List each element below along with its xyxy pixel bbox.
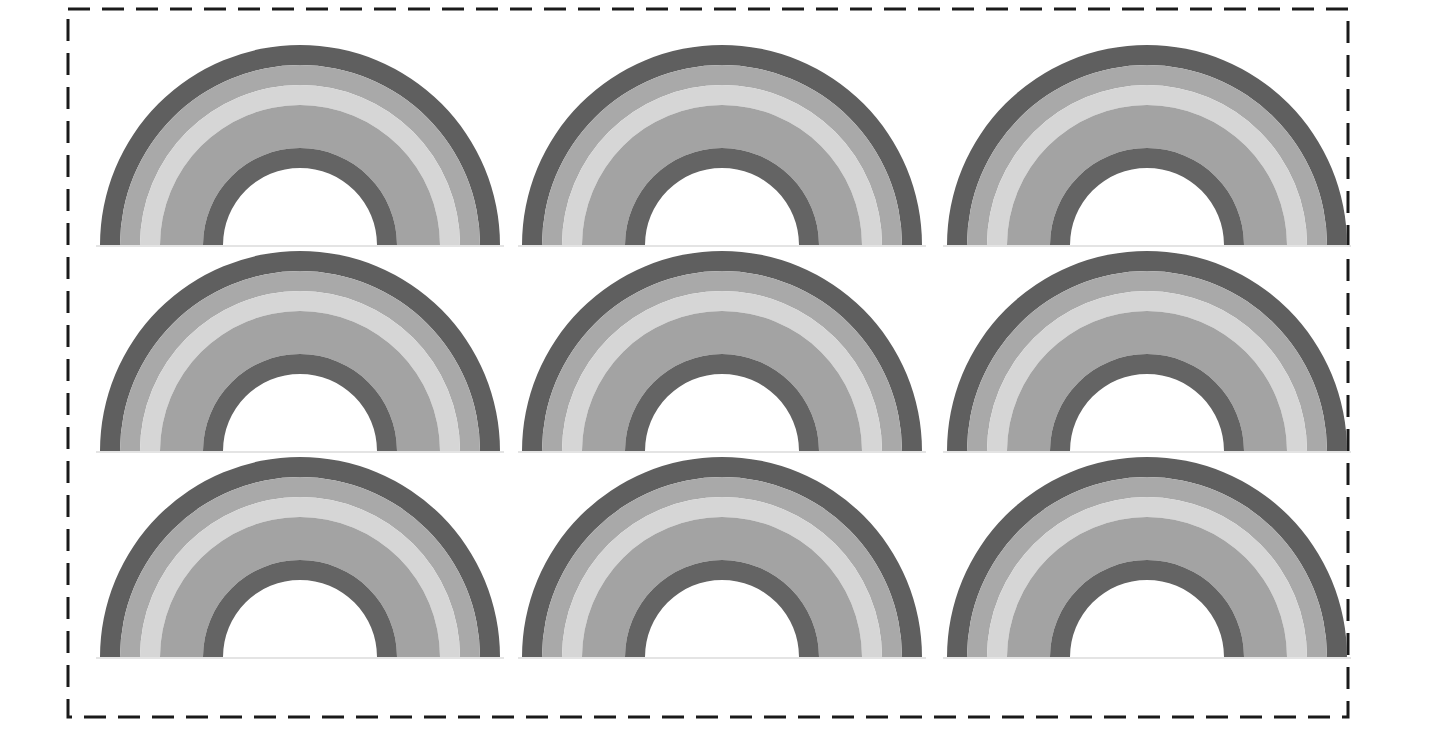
rainbow-2-3 (943, 251, 1351, 453)
rainbow-ground (943, 451, 1351, 453)
rainbow-ground (518, 245, 926, 247)
rainbow-1-3 (943, 45, 1351, 247)
rainbow-3-1 (96, 457, 504, 659)
rainbow-3-3 (943, 457, 1351, 659)
rainbow-ground (96, 451, 504, 453)
rainbow-ground (96, 245, 504, 247)
rainbow-grid (96, 45, 1351, 659)
rainbow-ground (943, 657, 1351, 659)
rainbow-1-1 (96, 45, 504, 247)
rainbow-1-2 (518, 45, 926, 247)
rainbow-3-2 (518, 457, 926, 659)
rainbow-ground (518, 451, 926, 453)
rainbow-ground (943, 245, 1351, 247)
rainbow-2-2 (518, 251, 926, 453)
rainbow-2-1 (96, 251, 504, 453)
rainbow-sheet (0, 0, 1436, 746)
rainbow-ground (518, 657, 926, 659)
rainbow-ground (96, 657, 504, 659)
